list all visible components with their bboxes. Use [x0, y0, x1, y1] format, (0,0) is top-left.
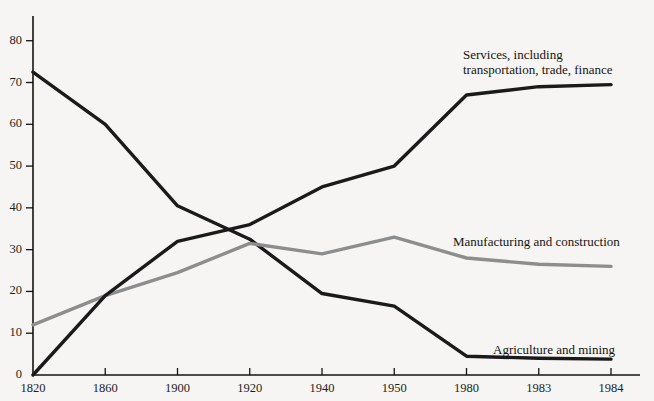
series-label-1: Manufacturing and construction	[453, 234, 620, 249]
y-axis-tick-label: 20	[0, 283, 22, 298]
series-label-0: Agriculture and mining	[493, 342, 615, 357]
x-axis-tick-label: 1860	[75, 381, 135, 396]
x-axis-tick-label: 1950	[364, 381, 424, 396]
series-line-2	[33, 85, 611, 375]
y-axis-tick-label: 70	[0, 75, 22, 90]
x-axis-tick-label: 1820	[3, 381, 63, 396]
y-axis-tick-label: 40	[0, 200, 22, 215]
series-label-2: Services, including transportation, trad…	[463, 47, 612, 77]
x-axis-tick-label: 1984	[581, 381, 641, 396]
x-axis-tick-label: 1920	[220, 381, 280, 396]
y-axis-tick-label: 50	[0, 158, 22, 173]
chart-series-lines	[33, 72, 611, 375]
x-axis-tick-label: 1940	[292, 381, 352, 396]
x-axis-tick-label: 1900	[148, 381, 208, 396]
series-line-1	[33, 237, 611, 325]
y-axis-tick-label: 10	[0, 325, 22, 340]
y-axis-tick-label: 30	[0, 242, 22, 257]
x-axis-tick-label: 1983	[509, 381, 569, 396]
chart-container: 01020304050607080 1820186019001920194019…	[0, 0, 654, 401]
y-axis-tick-label: 60	[0, 116, 22, 131]
series-line-0	[33, 72, 611, 359]
x-axis-tick-label: 1980	[437, 381, 497, 396]
y-axis-tick-label: 0	[0, 367, 22, 382]
y-axis-tick-label: 80	[0, 33, 22, 48]
